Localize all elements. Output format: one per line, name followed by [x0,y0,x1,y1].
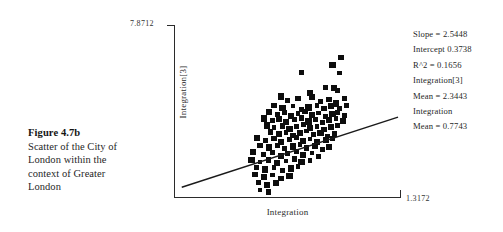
statistic-line-5: Mean = 2.3443 [413,89,503,104]
figure-container: Figure 4.7b Scatter of the City of Londo… [0,0,503,232]
statistic-line-7: Mean = 0.7743 [413,119,503,134]
x-axis-max-tick-label: 1.3172 [406,194,430,203]
y-axis-max-tick-label: 7.8712 [130,19,154,28]
scatter-plot: Integration[3] Integration [174,25,401,198]
figure-caption-body: Scatter of the City of London within the… [28,140,140,194]
statistic-line-2: Intercept 0.3738 [413,42,503,57]
regression-line [174,25,434,198]
statistic-line-3: R^2 = 0.1656 [413,58,503,73]
statistics-block: Slope = 2.5448Intercept 0.3738R^2 = 0.16… [413,27,503,135]
statistic-line-6: Integration [413,104,503,119]
statistic-line-1: Slope = 2.5448 [413,27,503,42]
figure-caption-title: Figure 4.7b [28,126,140,140]
statistic-line-4: Integration[3] [413,73,503,88]
regression-line-segment [182,117,398,187]
x-axis-label: Integration [174,207,401,217]
figure-caption: Figure 4.7b Scatter of the City of Londo… [28,126,140,194]
y-axis-max-tick [167,25,174,26]
y-axis-label: Integration[3] [178,17,188,167]
